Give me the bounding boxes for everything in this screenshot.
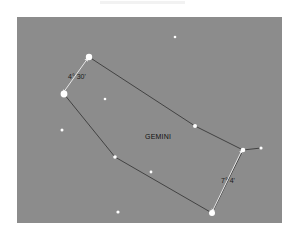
constellation-star (259, 146, 262, 149)
field-star (174, 36, 177, 39)
field-star (150, 171, 153, 174)
constellation-star (241, 148, 246, 153)
constellation-diagram: 4° 30' 7° 4' GEMINI (0, 0, 293, 235)
constellation-star (61, 91, 68, 98)
constellation-star (193, 124, 197, 128)
constellation-name-label: GEMINI (145, 133, 171, 140)
field-star (104, 98, 107, 101)
field-star (61, 129, 64, 132)
measurement-label-7-4: 7° 4' (221, 177, 235, 184)
measurement-label-4-30: 4° 30' (68, 73, 86, 80)
constellation-star (113, 155, 117, 159)
field-star (116, 210, 119, 213)
constellation-star (86, 54, 92, 60)
constellation-spur-line (243, 148, 261, 150)
field-stars (61, 36, 177, 214)
constellation-star (209, 210, 215, 216)
